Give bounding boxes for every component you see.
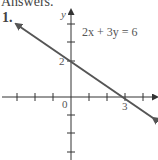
- x-intercept-label: 3: [122, 100, 128, 112]
- origin-label: 0: [62, 98, 68, 110]
- y-intercept-label: 2: [59, 55, 65, 67]
- equation-label: 2x + 3y = 6: [82, 25, 138, 40]
- y-axis-label: y: [61, 8, 66, 20]
- graph: [0, 0, 158, 160]
